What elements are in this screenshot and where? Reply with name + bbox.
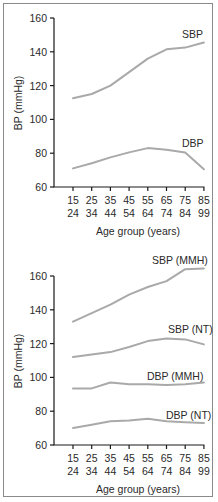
x-tick-label-bottom: 99	[198, 207, 210, 219]
x-tick-label-bottom: 44	[105, 465, 117, 477]
x-tick-label-bottom: 64	[142, 207, 154, 219]
x-tick-label-bottom: 24	[67, 207, 79, 219]
x-tick-label-top: 35	[105, 452, 117, 464]
y-tick-label: 160	[29, 12, 47, 24]
x-axis-title-bottom: Age group (years)	[96, 483, 180, 495]
chart-bottom: 6080100120140160 15242534354445545564657…	[12, 254, 213, 495]
series-line-sbp-mmh	[73, 268, 204, 321]
series-label-dbp: DBP	[182, 137, 204, 149]
series-lines-top	[73, 43, 204, 170]
x-tick-label-bottom: 99	[198, 465, 210, 477]
chart-top: 6080100120140160 15242534354445545564657…	[12, 12, 210, 237]
x-tick-label-top: 45	[123, 194, 135, 206]
x-tick-label-top: 75	[179, 194, 191, 206]
series-line-sbp-nt	[73, 339, 204, 358]
axis-line	[54, 18, 204, 187]
x-tick-label-top: 85	[198, 194, 210, 206]
y-tick-label: 80	[35, 147, 47, 159]
series-label-sbp-nt: SBP (NT)	[168, 323, 213, 335]
x-tick-label-top: 15	[67, 194, 79, 206]
y-tick-label: 60	[35, 439, 47, 451]
x-tick-label-bottom: 84	[179, 207, 191, 219]
x-tick-label-bottom: 74	[161, 465, 173, 477]
x-tick-label-top: 25	[86, 452, 98, 464]
y-tick-label: 60	[35, 181, 47, 193]
series-label-sbp-mmh: SBP (MMH)	[152, 254, 208, 266]
series-label-sbp: SBP	[182, 28, 203, 40]
series-label-dbp-mmh: DBP (MMH)	[147, 370, 203, 382]
x-tick-label-bottom: 84	[179, 465, 191, 477]
series-line-dbp	[73, 148, 204, 169]
x-tick-label-top: 65	[161, 194, 173, 206]
y-axis-top: 6080100120140160	[29, 12, 204, 193]
y-tick-label: 140	[29, 46, 47, 58]
y-axis-title-bottom: BP (mmHg)	[12, 334, 24, 389]
x-tick-label-bottom: 24	[67, 465, 79, 477]
figure-canvas: 6080100120140160 15242534354445545564657…	[0, 0, 218, 502]
y-tick-label: 120	[29, 80, 47, 92]
x-axis-top: 15242534354445545564657475848599	[67, 187, 210, 219]
x-tick-label-top: 85	[198, 452, 210, 464]
series-line-dbp-mmh	[73, 383, 204, 389]
x-tick-label-top: 25	[86, 194, 98, 206]
x-tick-label-top: 45	[123, 452, 135, 464]
x-tick-label-bottom: 54	[123, 465, 135, 477]
x-tick-label-bottom: 54	[123, 207, 135, 219]
x-tick-label-bottom: 64	[142, 465, 154, 477]
y-tick-label: 100	[29, 113, 47, 125]
y-axis-title-top: BP (mmHg)	[12, 76, 24, 131]
y-tick-label: 80	[35, 405, 47, 417]
x-tick-label-top: 75	[179, 452, 191, 464]
y-tick-label: 120	[29, 338, 47, 350]
y-axis-bottom: 6080100120140160	[29, 270, 204, 451]
series-lines-bottom	[73, 268, 204, 428]
x-tick-label-top: 55	[142, 452, 154, 464]
x-tick-label-bottom: 34	[86, 465, 98, 477]
x-tick-label-bottom: 34	[86, 207, 98, 219]
series-label-dbp-nt: DBP (NT)	[166, 409, 211, 421]
x-tick-label-top: 55	[142, 194, 154, 206]
x-axis-title-top: Age group (years)	[96, 225, 180, 237]
x-tick-label-top: 15	[67, 452, 79, 464]
y-tick-label: 100	[29, 371, 47, 383]
series-line-sbp	[73, 43, 204, 99]
x-tick-label-top: 35	[105, 194, 117, 206]
x-tick-label-top: 65	[161, 452, 173, 464]
x-axis-bottom: 15242534354445545564657475848599	[67, 445, 210, 477]
y-tick-label: 160	[29, 270, 47, 282]
x-tick-label-bottom: 44	[105, 207, 117, 219]
y-tick-label: 140	[29, 304, 47, 316]
x-tick-label-bottom: 74	[161, 207, 173, 219]
